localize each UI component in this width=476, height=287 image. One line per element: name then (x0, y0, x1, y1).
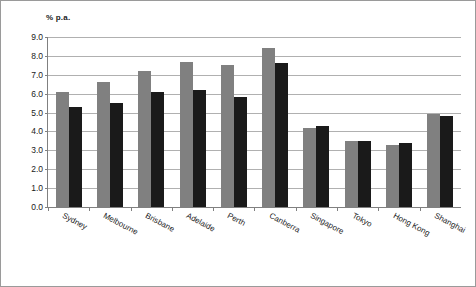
y-tick-label: 8.0 (31, 51, 43, 61)
bar-group (213, 37, 254, 207)
y-tick-label: 0.0 (31, 202, 43, 212)
bar-group (254, 37, 295, 207)
bar-1 (262, 48, 275, 207)
bar-group (378, 37, 419, 207)
x-tick-label: Tokyo (350, 211, 373, 229)
x-label-cell: Singapore (295, 209, 336, 265)
x-tick-label: Shanghai (433, 211, 467, 235)
bar-1 (180, 62, 193, 207)
bar-1 (345, 141, 358, 207)
bar-1 (427, 114, 440, 207)
bar-1 (56, 92, 69, 207)
bar-group (172, 37, 213, 207)
plot-area: 0.01.02.03.04.05.06.07.08.09.0 (47, 37, 461, 208)
y-tick-label: 6.0 (31, 89, 43, 99)
y-tick-label: 9.0 (31, 32, 43, 42)
bar-2 (193, 90, 206, 207)
y-tick-label: 7.0 (31, 70, 43, 80)
bar-1 (138, 71, 151, 207)
bar-group (337, 37, 378, 207)
y-axis-title: % p.a. (46, 13, 70, 22)
bar-1 (386, 145, 399, 207)
y-tick-label: 5.0 (31, 108, 43, 118)
x-tick-label: Perth (226, 211, 247, 228)
bar-group (89, 37, 130, 207)
bar-groups (48, 37, 461, 207)
chart-canvas: % p.a. 0.01.02.03.04.05.06.07.08.09.0 Sy… (0, 0, 476, 287)
x-label-cell: Brisbane (130, 209, 171, 265)
bar-group (131, 37, 172, 207)
x-label-cell: Tokyo (337, 209, 378, 265)
y-tick-label: 1.0 (31, 183, 43, 193)
bar-group (296, 37, 337, 207)
x-label-cell: Sydney (47, 209, 88, 265)
bar-2 (110, 103, 123, 207)
bar-2 (69, 107, 82, 207)
bar-group (48, 37, 89, 207)
x-label-cell: Hong Kong (378, 209, 419, 265)
y-tick-label: 3.0 (31, 145, 43, 155)
bar-2 (151, 92, 164, 207)
x-label-cell: Shanghai (420, 209, 461, 265)
y-tick-label: 4.0 (31, 126, 43, 136)
bar-2 (234, 97, 247, 207)
bar-2 (275, 63, 288, 207)
x-label-cell: Canberra (254, 209, 295, 265)
bar-group (420, 37, 461, 207)
x-label-cell: Melbourne (88, 209, 129, 265)
y-tick-label: 2.0 (31, 164, 43, 174)
x-label-cell: Perth (213, 209, 254, 265)
bar-2 (316, 126, 329, 207)
bar-1 (221, 65, 234, 207)
bar-1 (97, 82, 110, 207)
bar-2 (358, 141, 371, 207)
bar-1 (303, 128, 316, 207)
bar-2 (440, 116, 453, 207)
bar-2 (399, 143, 412, 207)
x-label-cell: Adelaide (171, 209, 212, 265)
x-tick-label: Sydney (60, 211, 88, 231)
x-axis-labels: SydneyMelbourneBrisbaneAdelaidePerthCanb… (47, 209, 461, 265)
